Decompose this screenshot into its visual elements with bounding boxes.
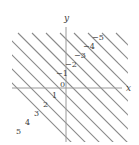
contour-label-neg3: −3 — [74, 52, 86, 60]
contour-label-0: 0 — [60, 81, 65, 89]
contour-line-neg5 — [102, 33, 139, 145]
contour-label-4: 4 — [25, 119, 30, 127]
contour-label-neg1: −1 — [56, 70, 68, 78]
y-axis-label: y — [64, 14, 69, 23]
contour-label-5: 5 — [16, 128, 21, 136]
contour-label-2: 2 — [43, 101, 48, 109]
contour-label-neg2: −2 — [65, 61, 77, 69]
x-axis-label: x — [126, 84, 131, 93]
contour-label-3: 3 — [34, 110, 39, 118]
contour-label-neg4: −4 — [83, 43, 95, 51]
plot-canvas — [0, 0, 139, 145]
contour-plot-figure: y x 0 −1 −2 −3 −4 −5 1 2 3 4 5 — [0, 0, 139, 145]
contour-label-neg5: −5 — [92, 34, 104, 42]
contour-label-1: 1 — [52, 92, 57, 100]
